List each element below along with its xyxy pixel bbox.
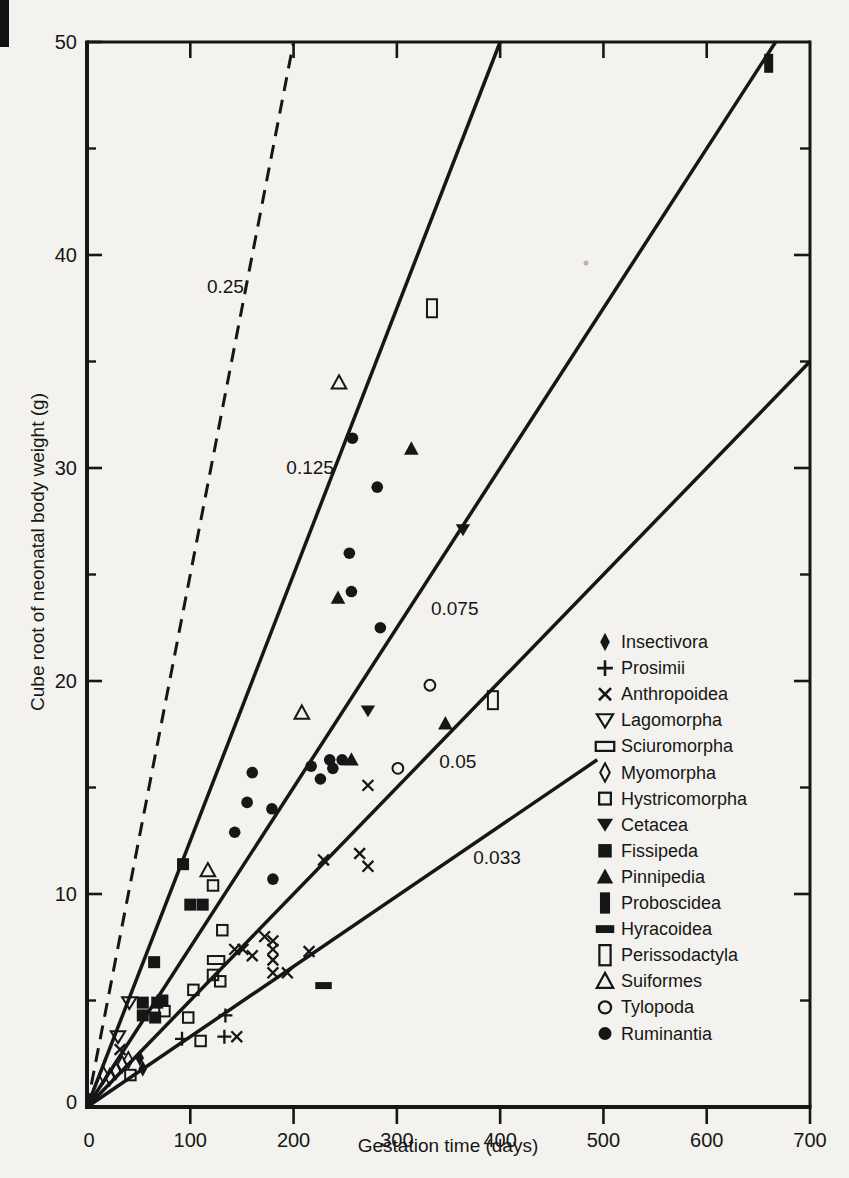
legend-entry-Myomorpha: Myomorpha xyxy=(600,763,717,783)
point-Suiformes xyxy=(332,375,347,388)
legend-entry-Sciuromorpha: Sciuromorpha xyxy=(596,736,734,756)
legend-label: Pinnipedia xyxy=(621,867,706,887)
legend-entry-Proboscidea: Proboscidea xyxy=(600,892,722,913)
x-tick-label: 700 xyxy=(793,1129,826,1151)
circle-open-legend-icon xyxy=(599,1001,611,1013)
point-Ruminantia xyxy=(315,773,327,785)
point-Ruminantia xyxy=(267,873,279,885)
slope-line-0.125 xyxy=(87,42,500,1107)
scan-artifact xyxy=(0,0,9,47)
point-Prosimii xyxy=(217,1030,231,1044)
legend-entry-Insectivora: Insectivora xyxy=(600,632,709,652)
point-Ruminantia xyxy=(327,763,339,775)
legend-entry-Tylopoda: Tylopoda xyxy=(599,997,695,1017)
series-Sciuromorpha xyxy=(208,956,225,964)
legend-label: Sciuromorpha xyxy=(621,736,734,756)
point-Anthropoidea xyxy=(268,967,279,978)
legend-label: Insectivora xyxy=(621,632,709,652)
point-Anthropoidea xyxy=(247,950,258,961)
rect-tall-filled-legend-icon xyxy=(600,892,610,913)
x-tick-label: 600 xyxy=(690,1129,723,1151)
legend-label: Myomorpha xyxy=(621,763,717,783)
rect-wide-filled-legend-icon xyxy=(596,925,614,933)
point-Fissipeda xyxy=(177,858,189,870)
point-Anthropoidea xyxy=(231,1031,242,1042)
point-Suiformes xyxy=(295,705,310,718)
point-Hystricomorpha xyxy=(215,976,226,987)
legend-entry-Perissodactyla: Perissodactyla xyxy=(599,945,739,965)
legend-label: Hyracoidea xyxy=(621,919,713,939)
triangle-up-filled-legend-icon xyxy=(597,869,613,884)
slope-label-0.05: 0.05 xyxy=(439,751,476,772)
cross-legend-icon xyxy=(599,688,611,700)
point-Fissipeda xyxy=(197,899,209,911)
legend-label: Lagomorpha xyxy=(621,710,723,730)
legend-entry-Suiformes: Suiformes xyxy=(597,971,702,991)
rect-tall-open-legend-icon xyxy=(599,945,610,965)
series-Hyracoidea xyxy=(315,982,332,989)
point-Ruminantia xyxy=(375,622,387,634)
legend-entry-Anthropoidea: Anthropoidea xyxy=(599,684,729,704)
x-tick-label: 400 xyxy=(483,1129,516,1151)
legend-entry-Hystricomorpha: Hystricomorpha xyxy=(599,789,748,809)
y-tick-label: 50 xyxy=(55,31,77,53)
legend-label: Hystricomorpha xyxy=(621,789,748,809)
point-Ruminantia xyxy=(371,481,383,493)
point-Sciuromorpha xyxy=(208,956,225,964)
point-Anthropoidea xyxy=(363,780,374,791)
series-Tylopoda xyxy=(392,680,435,774)
point-Ruminantia xyxy=(305,760,317,772)
series-Proboscidea xyxy=(764,54,773,73)
point-Ruminantia xyxy=(246,767,258,779)
point-Ruminantia xyxy=(347,432,359,444)
point-Anthropoidea xyxy=(268,955,279,966)
point-Fissipeda xyxy=(137,997,149,1009)
legend-entry-Hyracoidea: Hyracoidea xyxy=(596,919,713,939)
legend-entry-Pinnipedia: Pinnipedia xyxy=(597,867,706,887)
legend-label: Cetacea xyxy=(621,815,689,835)
slope-label-0.125: 0.125 xyxy=(286,457,334,478)
point-Fissipeda xyxy=(156,995,168,1007)
point-Hystricomorpha xyxy=(195,1036,206,1047)
point-Anthropoidea xyxy=(268,944,279,955)
legend: InsectivoraProsimiiAnthropoideaLagomorph… xyxy=(596,632,748,1044)
point-Ruminantia xyxy=(346,586,358,598)
figure-page: Gestation time (days) Cube root of neona… xyxy=(0,0,849,1178)
x-tick-label: 300 xyxy=(380,1129,413,1151)
diamond-open-legend-icon xyxy=(600,763,610,781)
legend-entry-Fissipeda: Fissipeda xyxy=(598,841,699,861)
legend-label: Fissipeda xyxy=(621,841,699,861)
legend-label: Suiformes xyxy=(621,971,702,991)
point-Pinnipedia xyxy=(404,441,419,454)
point-Hystricomorpha xyxy=(183,1012,194,1023)
y-tick-label: 30 xyxy=(55,457,77,479)
series-Ruminantia xyxy=(229,432,386,885)
slope-line-0.033 xyxy=(87,760,597,1107)
point-Hystricomorpha xyxy=(208,880,219,891)
plus-legend-icon xyxy=(597,660,613,676)
point-Ruminantia xyxy=(241,797,253,809)
point-Fissipeda xyxy=(149,1012,161,1024)
triangle-up-open-legend-icon xyxy=(597,973,613,988)
legend-entry-Cetacea: Cetacea xyxy=(597,815,689,835)
y-tick-label: 40 xyxy=(55,244,77,266)
y-tick-label: 0 xyxy=(66,1091,77,1113)
point-Fissipeda xyxy=(148,956,160,968)
y-tick-label: 10 xyxy=(55,883,77,905)
scan-speck xyxy=(584,261,589,266)
point-Tylopoda xyxy=(392,763,403,774)
point-Ruminantia xyxy=(229,826,241,838)
point-Pinnipedia xyxy=(331,590,346,603)
point-Proboscidea xyxy=(764,54,773,73)
x-tick-label: 200 xyxy=(277,1129,310,1151)
point-Anthropoidea xyxy=(354,848,365,859)
point-Ruminantia xyxy=(344,547,356,559)
diamond-filled-legend-icon xyxy=(600,633,610,651)
slope-label-0.25: 0.25 xyxy=(207,276,244,297)
point-Tylopoda xyxy=(425,680,436,691)
legend-label: Ruminantia xyxy=(621,1024,713,1044)
circle-filled-legend-icon xyxy=(599,1027,612,1040)
point-Fissipeda xyxy=(184,899,196,911)
triangle-down-filled-legend-icon xyxy=(597,819,613,832)
x-tick-label: 500 xyxy=(587,1129,620,1151)
